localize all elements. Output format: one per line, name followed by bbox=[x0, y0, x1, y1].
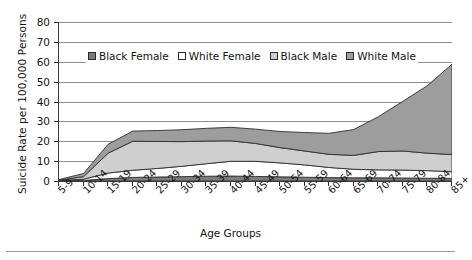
legend-item-label: White Female bbox=[189, 50, 261, 62]
y-axis-tick-label: 50 bbox=[24, 77, 50, 88]
y-axis-tick-label: 30 bbox=[24, 116, 50, 127]
chart-legend: Black FemaleWhite FemaleBlack MaleWhite … bbox=[86, 49, 418, 63]
x-axis-title: Age Groups bbox=[0, 227, 461, 239]
y-axis-tick-label: 20 bbox=[24, 136, 50, 147]
plot-area bbox=[58, 22, 452, 182]
legend-item: White Male bbox=[346, 50, 416, 62]
legend-item: Black Male bbox=[270, 50, 338, 62]
stacked-area-series-group bbox=[59, 22, 452, 181]
legend-item-label: Black Female bbox=[99, 50, 169, 62]
legend-swatch-icon bbox=[270, 52, 278, 60]
y-axis-tick-label: 10 bbox=[24, 156, 50, 167]
y-axis-tick-label: 40 bbox=[24, 97, 50, 108]
x-axis-tick-label: 85+ bbox=[449, 173, 472, 196]
y-axis-tick-label: 70 bbox=[24, 37, 50, 48]
legend-item-label: Black Male bbox=[281, 50, 338, 62]
legend-item: Black Female bbox=[88, 50, 169, 62]
y-axis-tick-label: 80 bbox=[24, 17, 50, 28]
legend-item-label: White Male bbox=[357, 50, 416, 62]
y-axis-tick-label: 60 bbox=[24, 57, 50, 68]
legend-swatch-icon bbox=[178, 52, 186, 60]
y-axis-tick-label: 0 bbox=[24, 176, 50, 187]
legend-swatch-icon bbox=[88, 52, 96, 60]
footer-divider bbox=[6, 251, 455, 252]
legend-swatch-icon bbox=[346, 52, 354, 60]
legend-item: White Female bbox=[178, 50, 261, 62]
